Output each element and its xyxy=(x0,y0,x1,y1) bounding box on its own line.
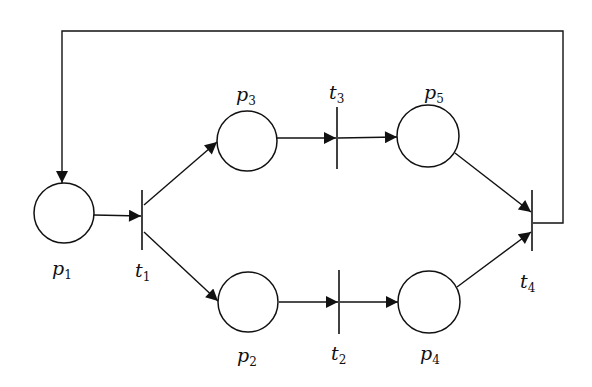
label-p2: p2 xyxy=(237,344,257,369)
arc-p5-t4 xyxy=(455,153,531,212)
label-t4: t4 xyxy=(520,270,536,295)
place-p2 xyxy=(218,272,278,332)
label-t2: t2 xyxy=(331,342,346,367)
arc-t3-p5 xyxy=(338,137,397,138)
arc-t1-p3 xyxy=(144,142,217,205)
label-t3: t3 xyxy=(329,81,344,106)
arc-t4-p1 xyxy=(62,31,563,223)
label-t1: t1 xyxy=(135,259,150,284)
place-p4 xyxy=(398,271,460,333)
label-p5: p5 xyxy=(424,81,444,106)
label-p3: p3 xyxy=(236,83,256,108)
label-p4: p4 xyxy=(420,342,440,367)
place-p1 xyxy=(34,183,94,243)
place-p5 xyxy=(397,105,459,167)
petri-net-diagram: p1 t1 p2 t2 p4 t4 p3 t3 p5 xyxy=(0,0,592,387)
place-p3 xyxy=(217,111,277,171)
arc-t1-p2 xyxy=(144,232,218,301)
label-p1: p1 xyxy=(52,257,72,282)
arc-p1-t1 xyxy=(94,215,141,216)
